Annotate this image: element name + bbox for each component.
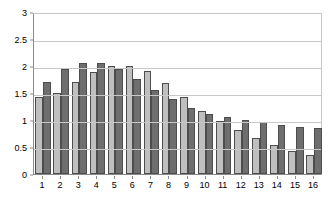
- bar-chart: 00.511.522.53 12345678910111213141516: [0, 0, 333, 212]
- x-tick-mark: [295, 176, 296, 179]
- bars-layer: [34, 14, 321, 174]
- y-tick-label: 0: [22, 171, 27, 180]
- bar: [90, 72, 98, 174]
- bar: [224, 117, 232, 174]
- bar: [53, 93, 61, 174]
- y-axis: 00.511.522.53: [0, 0, 33, 212]
- x-tick-label: 12: [232, 181, 250, 190]
- bar: [108, 66, 116, 174]
- bar: [180, 97, 188, 174]
- plot-area: [33, 13, 322, 175]
- gridline: [34, 122, 321, 123]
- x-tick-label: 11: [214, 181, 232, 190]
- x-tick-mark: [78, 176, 79, 179]
- bar: [162, 83, 170, 174]
- bar: [126, 66, 134, 174]
- x-tick-mark: [150, 176, 151, 179]
- x-axis: 12345678910111213141516: [33, 176, 322, 206]
- x-tick-label: 3: [69, 181, 87, 190]
- bar: [133, 79, 141, 174]
- y-tick-label: 2.5: [14, 36, 27, 45]
- x-tick-mark: [132, 176, 133, 179]
- x-tick-label: 15: [286, 181, 304, 190]
- x-tick-label: 6: [123, 181, 141, 190]
- x-tick-mark: [277, 176, 278, 179]
- x-tick-mark: [60, 176, 61, 179]
- x-tick-label: 13: [250, 181, 268, 190]
- gridline: [34, 41, 321, 42]
- x-tick-label: 4: [87, 181, 105, 190]
- x-tick-mark: [259, 176, 260, 179]
- gridline: [34, 149, 321, 150]
- bar: [198, 111, 206, 174]
- x-tick-mark: [241, 176, 242, 179]
- bar: [306, 155, 314, 174]
- x-tick-label: 1: [33, 181, 51, 190]
- gridline: [34, 95, 321, 96]
- y-tick-label: 1.5: [14, 90, 27, 99]
- bar: [79, 63, 87, 174]
- x-tick-label: 2: [51, 181, 69, 190]
- x-tick-label: 16: [304, 181, 322, 190]
- bar: [188, 108, 196, 174]
- x-tick-label: 9: [178, 181, 196, 190]
- bar: [234, 130, 242, 174]
- y-tick-label: 3: [22, 9, 27, 18]
- bar: [97, 63, 105, 174]
- x-tick-label: 10: [196, 181, 214, 190]
- bar: [252, 138, 260, 174]
- x-tick-label: 5: [105, 181, 123, 190]
- y-tick-label: 1: [22, 117, 27, 126]
- x-tick-label: 7: [141, 181, 159, 190]
- x-tick-mark: [313, 176, 314, 179]
- bar: [151, 90, 159, 174]
- x-tick-mark: [96, 176, 97, 179]
- bar: [288, 151, 296, 174]
- x-tick-label: 8: [159, 181, 177, 190]
- bar: [35, 97, 43, 174]
- y-tick-label: 0.5: [14, 144, 27, 153]
- x-tick-mark: [168, 176, 169, 179]
- x-tick-label: 14: [268, 181, 286, 190]
- x-tick-mark: [223, 176, 224, 179]
- bar: [216, 121, 224, 174]
- y-tick-label: 2: [22, 63, 27, 72]
- x-tick-mark: [205, 176, 206, 179]
- x-tick-mark: [187, 176, 188, 179]
- x-tick-mark: [42, 176, 43, 179]
- x-tick-mark: [114, 176, 115, 179]
- gridline: [34, 68, 321, 69]
- bar: [314, 128, 322, 174]
- bar: [242, 120, 250, 174]
- bar: [169, 99, 177, 174]
- bar: [296, 127, 304, 174]
